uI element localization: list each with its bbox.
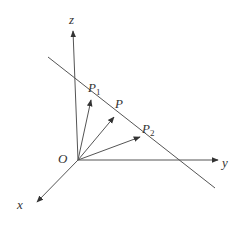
x-axis-label: x xyxy=(16,197,23,212)
vector-diagram: z y x O P1 P P2 xyxy=(0,0,240,225)
p2-letter: P xyxy=(141,121,150,136)
p1-letter: P xyxy=(87,80,96,95)
p2-subscript: 2 xyxy=(150,128,155,138)
origin-label: O xyxy=(58,151,68,166)
x-axis xyxy=(37,160,78,202)
p2-label: P2 xyxy=(141,121,154,138)
p1-label: P1 xyxy=(87,80,100,97)
p1-subscript: 1 xyxy=(96,87,101,97)
vector-op1 xyxy=(78,100,91,160)
line-l xyxy=(48,57,215,188)
p-label: P xyxy=(114,96,123,111)
y-axis-label: y xyxy=(220,155,228,170)
z-axis xyxy=(73,31,78,160)
z-axis-label: z xyxy=(68,12,74,27)
